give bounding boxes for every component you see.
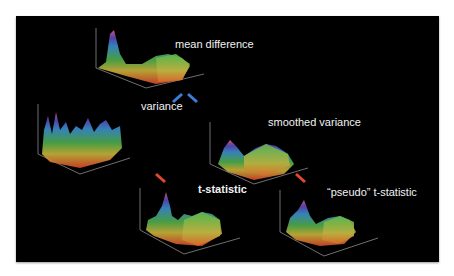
t-statistic-surface-plot <box>132 186 252 262</box>
pseudo-t-statistic-label: “pseudo” t-statistic <box>327 186 417 198</box>
variance-label: variance <box>141 100 183 112</box>
mean-difference-label: mean difference <box>175 38 254 50</box>
smoothed-variance-label: smoothed variance <box>268 116 361 128</box>
arrow-red-right-icon <box>294 172 308 184</box>
arrow-red-left-icon <box>154 172 168 184</box>
variance-surface-plot <box>30 100 140 180</box>
arrow-blue-right-icon <box>186 92 200 104</box>
mean-difference-surface-plot <box>86 24 226 94</box>
t-statistic-label: t-statistic <box>198 183 247 195</box>
pseudo-t-statistic-surface-plot <box>274 188 394 262</box>
diagram-panel: mean difference variance smoothed varian… <box>16 16 439 262</box>
